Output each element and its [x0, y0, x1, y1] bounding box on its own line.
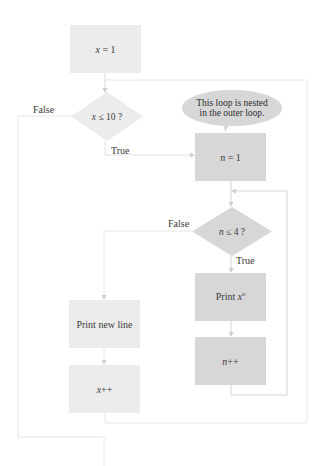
inner-increment-op: ++ [227, 356, 238, 367]
inner-false-label: False [168, 218, 189, 229]
flowchart-connectors [0, 0, 324, 466]
annotation-line-2: in the outer loop. [200, 108, 265, 118]
outer-false-label: False [33, 104, 54, 115]
outer-increment-op: ++ [101, 384, 112, 395]
outer-init-op: = 1 [100, 44, 116, 55]
annotation-line-1: This loop is nested [196, 98, 268, 108]
print-exponent: n [242, 291, 245, 297]
nested-loop-annotation: This loop is nestedin the outer loop. [181, 90, 283, 134]
print-newline-box: Print new line [69, 300, 140, 348]
outer-init-box: x = 1 [70, 25, 141, 73]
inner-condition-op: ≤ 4 ? [224, 227, 245, 237]
print-power-box: Print xn [195, 273, 266, 321]
inner-true-label: True [236, 255, 255, 266]
outer-condition-op: ≤ 10 ? [96, 112, 122, 122]
print-prefix: Print [216, 292, 238, 303]
print-newline-text: Print new line [76, 319, 132, 330]
outer-condition-diamond: x ≤ 10 ? [71, 92, 143, 141]
outer-true-label: True [111, 145, 130, 156]
inner-init-op: = 1 [225, 152, 241, 163]
inner-condition-diamond: n ≤ 4 ? [192, 207, 272, 256]
inner-init-box: n = 1 [195, 133, 266, 181]
inner-increment-box: n++ [195, 337, 266, 385]
outer-increment-box: x++ [69, 365, 140, 413]
